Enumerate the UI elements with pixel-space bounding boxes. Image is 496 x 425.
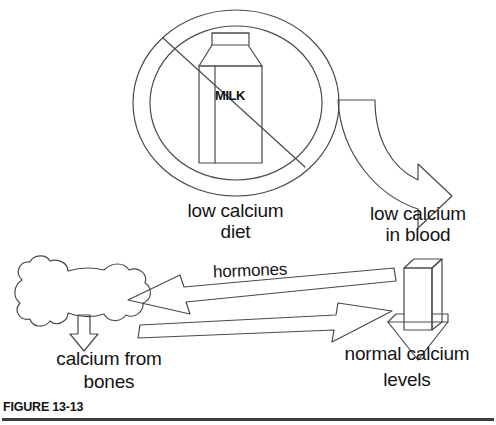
block-shaft-side <box>432 259 442 330</box>
block-arrowhead-left-wing <box>388 314 404 322</box>
node-label-low-calcium-diet: low calcium diet <box>128 200 343 242</box>
node-label-low-calcium-in-blood: low calcium in blood <box>340 203 496 245</box>
node-label-calcium-from-bones: calcium from bones <box>0 347 218 393</box>
prohibition-outer-circle <box>133 10 339 196</box>
no-milk-icon <box>133 10 339 196</box>
figure-caption: FIGURE 13-13 <box>3 400 83 414</box>
caption-divider-rule <box>2 418 494 421</box>
block-arrowhead-right-wing <box>432 314 448 322</box>
carton-body <box>199 66 262 163</box>
node-label-normal-calcium-levels: normal calcium levels <box>318 341 496 393</box>
return-arrow-right <box>138 303 392 342</box>
block-shaft-front <box>404 268 432 330</box>
small-down-arrow <box>70 315 98 351</box>
carton-gable-fold <box>212 33 249 45</box>
carton-gable <box>199 45 262 66</box>
milk-carton-brand-text: MILK <box>200 88 260 103</box>
figure-diagram: low calcium diet low calcium in blood ca… <box>0 0 496 425</box>
